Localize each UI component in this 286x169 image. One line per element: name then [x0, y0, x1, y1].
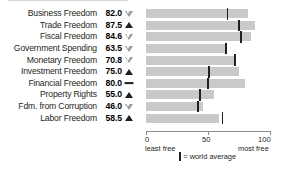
row-value: 87.5 — [100, 21, 122, 30]
trend-up-icon — [122, 89, 136, 101]
legend-label: = world average — [183, 153, 236, 161]
triangle-up-icon — [125, 69, 133, 75]
world-average-marker — [197, 101, 199, 113]
triangle-up-icon — [125, 22, 133, 28]
axis-tick-label: 50 — [202, 136, 210, 144]
row-label: Business Freedom — [0, 9, 97, 18]
row-label: Property Rights — [0, 90, 97, 99]
value-bar — [146, 9, 248, 18]
chart-row: Fdm. from Corruption46.0 — [0, 101, 286, 113]
row-label-wrap: Monetary Freedom — [0, 56, 100, 65]
trend-down-icon — [122, 43, 136, 55]
row-label: Financial Freedom — [0, 79, 97, 88]
top-divider-artifact — [8, 0, 128, 1]
row-label-wrap: Fdm. from Corruption — [0, 102, 100, 111]
row-label: Investment Freedom — [0, 67, 97, 76]
triangle-down-outline-icon — [125, 104, 133, 110]
world-average-marker — [208, 66, 210, 78]
chart-row: Business Freedom82.0 — [0, 8, 286, 20]
row-label: Fiscal Freedom — [0, 32, 97, 41]
row-plot — [136, 66, 286, 78]
value-bar — [146, 90, 214, 99]
row-label-wrap: Investment Freedom — [0, 67, 100, 76]
world-average-marker — [227, 8, 229, 20]
chart-row: Monetary Freedom70.8 — [0, 54, 286, 66]
chart-row: Property Rights55.0 — [0, 89, 286, 101]
freedom-index-chart: Business Freedom82.0Trade Freedom87.5Fis… — [0, 0, 286, 169]
row-value: 82.0 — [100, 9, 122, 18]
triangle-down-outline-icon — [125, 34, 133, 40]
row-label: Labor Freedom — [0, 114, 97, 123]
row-value: 46.0 — [100, 102, 122, 111]
axis-end-caption: most free — [238, 145, 269, 153]
row-label: Government Spending — [0, 44, 97, 53]
axis-end-caption: least free — [145, 145, 175, 153]
value-bar — [146, 44, 225, 53]
row-plot — [136, 43, 286, 55]
row-plot — [136, 112, 286, 124]
trend-up-icon — [122, 66, 136, 78]
value-bar — [146, 32, 251, 41]
trend-down-icon — [122, 8, 136, 20]
chart-rows: Business Freedom82.0Trade Freedom87.5Fis… — [0, 8, 286, 124]
row-label-wrap: Financial Freedom — [0, 79, 100, 88]
row-label: Fdm. from Corruption — [0, 102, 97, 111]
world-average-marker-icon — [179, 152, 181, 161]
row-plot — [136, 54, 286, 66]
triangle-up-icon — [125, 115, 133, 121]
trend-flat-icon — [122, 78, 136, 90]
row-plot — [136, 8, 286, 20]
world-average-marker — [240, 31, 242, 43]
chart-row: Trade Freedom87.5 — [0, 20, 286, 32]
row-value: 70.8 — [100, 56, 122, 65]
trend-down-icon — [122, 31, 136, 43]
row-label: Trade Freedom — [0, 21, 97, 30]
legend: = world average — [179, 152, 236, 161]
world-average-marker — [234, 54, 236, 66]
trend-up-icon — [122, 20, 136, 32]
row-plot — [136, 101, 286, 113]
row-label-wrap: Fiscal Freedom — [0, 32, 100, 41]
world-average-marker — [207, 78, 209, 90]
world-average-marker — [225, 43, 227, 55]
row-value: 55.0 — [100, 90, 122, 99]
row-label-wrap: Labor Freedom — [0, 114, 100, 123]
world-average-marker — [222, 112, 224, 124]
triangle-up-icon — [125, 92, 133, 98]
value-bar — [146, 102, 203, 111]
axis-tick-label: 100 — [258, 136, 271, 144]
row-label-wrap: Business Freedom — [0, 9, 100, 18]
row-label-wrap: Government Spending — [0, 44, 100, 53]
row-label: Monetary Freedom — [0, 56, 97, 65]
trend-down-icon — [122, 54, 136, 66]
value-bar — [146, 56, 234, 65]
triangle-down-outline-icon — [125, 46, 133, 52]
axis-tick-label: 0 — [145, 136, 149, 144]
row-label-wrap: Trade Freedom — [0, 21, 100, 30]
chart-row: Government Spending63.5 — [0, 43, 286, 55]
row-plot — [136, 31, 286, 43]
world-average-marker — [199, 89, 201, 101]
row-value: 63.5 — [100, 44, 122, 53]
trend-up-icon — [122, 112, 136, 124]
triangle-down-outline-icon — [125, 57, 133, 63]
triangle-down-outline-icon — [125, 11, 133, 17]
value-bar — [146, 114, 219, 123]
row-plot — [136, 78, 286, 90]
row-value: 80.0 — [100, 79, 122, 88]
row-label-wrap: Property Rights — [0, 90, 100, 99]
chart-row: Investment Freedom75.0 — [0, 66, 286, 78]
dash-icon — [125, 82, 134, 84]
row-plot — [136, 89, 286, 101]
world-average-marker — [238, 20, 240, 32]
row-plot — [136, 20, 286, 32]
chart-row: Financial Freedom80.0 — [0, 78, 286, 90]
row-value: 84.6 — [100, 32, 122, 41]
value-bar — [146, 67, 239, 76]
trend-down-icon — [122, 101, 136, 113]
value-bar — [146, 79, 245, 88]
row-value: 58.5 — [100, 114, 122, 123]
chart-row: Fiscal Freedom84.6 — [0, 31, 286, 43]
chart-row: Labor Freedom58.5 — [0, 112, 286, 124]
row-value: 75.0 — [100, 67, 122, 76]
